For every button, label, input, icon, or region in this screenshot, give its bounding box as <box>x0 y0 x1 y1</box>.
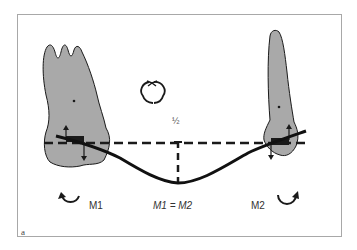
midpoint-label: ½ <box>172 116 180 126</box>
left-tooth-center-dot <box>73 100 76 103</box>
counterclockwise-arrow-icon <box>58 192 79 202</box>
right-tooth-center-dot <box>278 106 281 109</box>
clockwise-arrow-icon <box>278 191 299 204</box>
panel-label: a <box>21 227 25 237</box>
moment-right-label: M2 <box>251 200 265 211</box>
circular-arrows-icon <box>141 82 165 103</box>
moment-equation-label: M1 = M2 <box>153 200 192 211</box>
down-arrow-icon <box>268 155 274 160</box>
moment-left-label: M1 <box>89 200 103 211</box>
